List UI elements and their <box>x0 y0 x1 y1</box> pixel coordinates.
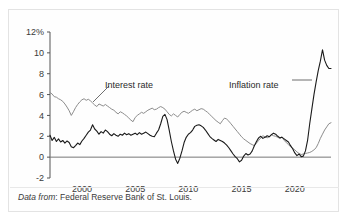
annotation-inflation-rate-label: Inflation rate <box>229 80 279 90</box>
chart-plot-area: 12%1086420-2 20002005201020152020 <box>9 10 340 213</box>
caption-source: : Federal Reserve Bank of St. Louis. <box>55 192 192 202</box>
y-axis-tick-label: 10 <box>34 48 44 58</box>
x-axis-tick-label: 2015 <box>232 184 252 194</box>
data-series-group <box>50 50 331 164</box>
y-axis-tick-label: 12% <box>26 27 44 37</box>
y-axis-tick-label: 2 <box>39 131 44 141</box>
chart-figure: 12%1086420-2 20002005201020152020 Intere… <box>8 9 339 212</box>
series-line-interest-rate <box>50 92 331 154</box>
caption-emphasis: Data from <box>18 192 55 202</box>
series-line-inflation-rate <box>50 50 331 164</box>
x-axis-tick-label: 2020 <box>285 184 305 194</box>
annotation-interest-rate-label: Interest rate <box>105 80 153 90</box>
caption-divider <box>10 187 339 188</box>
y-axis-tick-label: -2 <box>36 173 44 183</box>
figure-caption: Data from: Federal Reserve Bank of St. L… <box>18 192 192 202</box>
y-axis-tick-label: 8 <box>39 69 44 79</box>
y-axis-tick-label: 6 <box>39 90 44 100</box>
annotation-inflation-rate: Inflation rate <box>229 74 279 92</box>
y-axis: 12%1086420-2 <box>26 27 50 183</box>
y-axis-tick-label: 0 <box>39 152 44 162</box>
y-axis-tick-label: 4 <box>39 111 44 121</box>
annotation-interest-rate: Interest rate <box>105 74 153 92</box>
line-chart-svg: 12%1086420-2 20002005201020152020 <box>9 10 340 213</box>
